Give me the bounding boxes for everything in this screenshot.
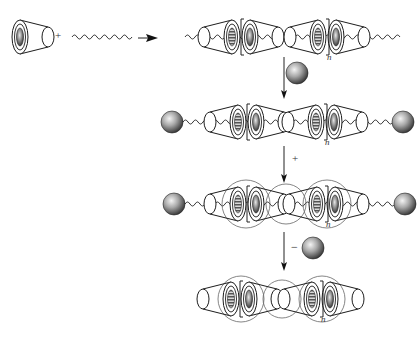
repeat-unit-n-row1: n <box>327 52 332 62</box>
repeat-unit-n-row3: n <box>326 219 331 229</box>
plus-sign-reactants: + <box>55 29 61 41</box>
crosslinked-polyrotaxane <box>163 180 416 228</box>
repeat-unit-n-row2: n <box>325 137 330 147</box>
minus-sign-step4: − <box>291 240 298 255</box>
reaction-scheme <box>0 0 420 341</box>
arrow-right-step1 <box>138 34 158 42</box>
arrow-down-step4 <box>281 232 287 271</box>
stopper-removed-step4 <box>302 237 324 259</box>
arrow-down-step3 <box>281 146 287 183</box>
arrow-down-step2 <box>281 57 287 99</box>
crosslinked-ring-assembly <box>197 276 364 322</box>
repeat-unit-n-row4: n <box>321 314 326 324</box>
reactant-cyclodextrin <box>12 20 54 54</box>
reactant-polymer-chain <box>72 35 132 39</box>
stopper-reagent-step2 <box>286 62 308 84</box>
plus-sign-step3: + <box>292 152 298 164</box>
capped-polyrotaxane <box>161 104 414 140</box>
inclusion-complex <box>185 19 400 55</box>
